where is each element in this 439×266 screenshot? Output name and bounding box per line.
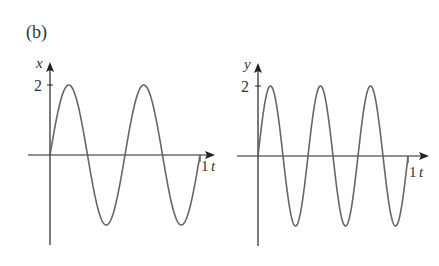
right-x-tick-label: 1 [409,164,417,180]
right-y-axis-label: y [242,56,251,72]
right-x-axis-label: t [419,164,424,180]
left-y-tick-label: 2 [34,77,42,94]
left-x-axis-label: t [211,158,216,174]
left-x-tick-label: 1 [201,158,209,174]
left-y-axis-label: x [35,55,43,71]
right-plot: y 2 1 t [237,56,429,246]
right-y-tick-label: 2 [241,78,249,95]
left-plot: x 2 1 t [28,55,216,245]
figure: (b) x 2 1 t y 2 1 t [0,0,439,266]
panel-label: (b) [26,22,47,43]
